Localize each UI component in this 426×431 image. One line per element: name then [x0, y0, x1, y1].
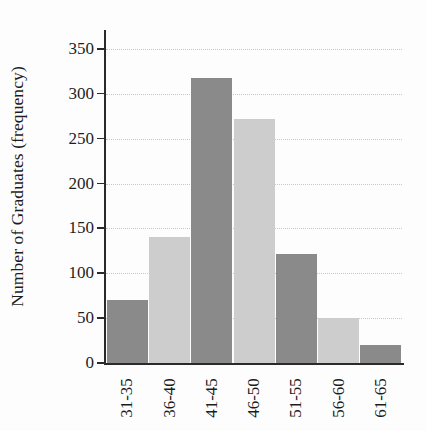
y-tickmark-150 — [97, 227, 106, 229]
y-tickmark-0 — [97, 362, 106, 364]
x-axis-ticks: 31-3536-4041-4546-5051-5556-6061-65 — [106, 366, 402, 431]
x-tick-label: 36-40 — [159, 378, 179, 418]
bar-41-45 — [191, 78, 232, 363]
y-tick-label: 200 — [34, 174, 94, 194]
y-tickmark-350 — [97, 48, 106, 50]
x-tick-slot: 56-60 — [318, 366, 359, 431]
x-tick-slot: 36-40 — [149, 366, 190, 431]
bar-56-60 — [318, 318, 359, 363]
y-tick-label: 250 — [34, 129, 94, 149]
y-tickmark-300 — [97, 93, 106, 95]
bar-36-40 — [149, 237, 190, 363]
bar-46-50 — [234, 119, 275, 363]
y-axis-title-text: Number of Graduates (frequency) — [7, 66, 28, 307]
bar-51-55 — [276, 254, 317, 363]
y-tick-label: 350 — [34, 39, 94, 59]
y-tick-label: 150 — [34, 218, 94, 238]
y-axis-title: Number of Graduates (frequency) — [0, 0, 34, 372]
x-tick-label: 61-65 — [371, 378, 391, 418]
y-tickmark-250 — [97, 138, 106, 140]
x-tick-label: 41-45 — [202, 378, 222, 418]
x-tick-slot: 61-65 — [360, 366, 401, 431]
y-tickmark-200 — [97, 183, 106, 185]
y-tick-label: 0 — [34, 353, 94, 373]
x-tick-slot: 41-45 — [191, 366, 232, 431]
y-tickmark-100 — [97, 272, 106, 274]
bar-61-65 — [360, 345, 401, 363]
bar-31-35 — [107, 300, 148, 363]
x-tick-slot: 46-50 — [234, 366, 275, 431]
x-tick-slot: 31-35 — [107, 366, 148, 431]
x-tick-label: 51-55 — [286, 378, 306, 418]
x-axis-line — [104, 363, 404, 365]
histogram-figure: Number of Graduates (frequency) 05010015… — [0, 0, 426, 431]
x-tick-label: 46-50 — [244, 378, 264, 418]
x-tick-label: 56-60 — [329, 378, 349, 418]
y-tickmark-50 — [97, 317, 106, 319]
y-tick-label: 300 — [34, 84, 94, 104]
x-tick-label: 31-35 — [117, 378, 137, 418]
bar-series — [106, 30, 402, 363]
y-tick-label: 50 — [34, 308, 94, 328]
y-tick-label: 100 — [34, 263, 94, 283]
x-tick-slot: 51-55 — [276, 366, 317, 431]
